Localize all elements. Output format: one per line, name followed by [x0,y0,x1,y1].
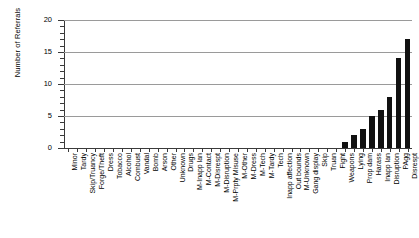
x-tick [176,148,177,152]
x-tick-label: Alcohol [125,153,132,176]
bar-slot [316,20,322,148]
x-tick-label: Skip [321,153,328,167]
bar-slot [253,20,259,148]
bar-slot [66,20,72,148]
x-tick [86,148,87,152]
x-tick [283,148,284,152]
x-tick-label: Harass [375,153,382,175]
x-tick-label: Vandal [143,153,150,174]
x-tick-label: M-Other [241,153,248,179]
x-tick [220,148,221,152]
x-tick-label: Out bounds [295,153,302,189]
bar [351,135,357,148]
x-tick [256,148,257,152]
x-tick [140,148,141,152]
bar-slot [75,20,81,148]
x-tick [381,148,382,152]
bar-slot [137,20,143,148]
x-tick [399,148,400,152]
x-tick-label: Weapons [348,153,355,182]
x-tick-label: Gang display [312,153,319,194]
bar-slot [146,20,152,148]
x-tick-label: Minor [71,153,78,171]
x-tick-label: Fight [339,153,346,169]
x-tick [372,148,373,152]
bar-slot [396,20,402,148]
x-tick-label: Truan [330,153,337,171]
bar-slot [262,20,268,148]
x-tick [390,148,391,152]
bar-slot [92,20,98,148]
x-tick [202,148,203,152]
y-tick-label-10: 10 [26,79,52,88]
bar-slot [191,20,197,148]
bar-slot [164,20,170,148]
x-tick-label: Tobacco [116,153,123,179]
x-tick-label: Unknown [179,153,186,182]
x-tick-label: Skip/Truancy [89,153,96,194]
x-tick-label: Dress [107,153,114,171]
bar-slot [405,20,411,148]
x-tick-label: M-Inapp lan [196,153,203,190]
x-tick-label: Tardy [80,153,87,170]
x-tick-label: Forge/Theft [98,153,105,189]
bar [378,110,384,148]
bar-slot [182,20,188,148]
x-tick [193,148,194,152]
bar [360,129,366,148]
x-tick [274,148,275,152]
bar-slot [200,20,206,148]
x-tick [327,148,328,152]
x-tick-label: Arson [161,153,168,171]
x-tick [265,148,266,152]
bar [369,116,375,148]
bar-slot [324,20,330,148]
bar [405,39,411,148]
x-tick [68,148,69,152]
x-tick-label: M-Unknown [303,153,310,190]
bar-slot [307,20,313,148]
y-tick-label-15: 15 [26,47,52,56]
x-tick [247,148,248,152]
bar-slot [119,20,125,148]
x-tick-label: Disrespt [411,153,418,179]
y-axis-title: Number of Referrals [13,0,22,98]
x-tick-label: M-Dress [250,153,257,179]
x-tick-label: Prop dam [366,153,373,183]
x-tick [336,148,337,152]
bar [387,97,393,148]
bar-slot [387,20,393,148]
bar-slot [235,20,241,148]
x-tick-label: Inapp lan [384,153,391,182]
x-tick [300,148,301,152]
bar-slot [244,20,250,148]
x-tick [292,148,293,152]
bar-slot [173,20,179,148]
x-tick-label: Tech [277,153,284,168]
bar-slot [84,20,90,148]
x-axis-tick-labels: MinorTardySkip/TruancyForge/TheftDressTo… [64,153,412,238]
x-tick [167,148,168,152]
bar-chart: Number of Referrals 05101520 MinorTardyS… [0,0,419,238]
bar-slot [101,20,107,148]
x-tick [149,148,150,152]
bar-slot [378,20,384,148]
x-tick-label: M-Tardy [268,153,275,178]
x-tick-label: M-Contact [205,153,212,185]
bar-slot [226,20,232,148]
bar-slot [289,20,295,148]
bar-slot [360,20,366,148]
x-tick [211,148,212,152]
x-tick-label: Disruption [393,153,400,185]
x-tick [122,148,123,152]
x-tick-label: PAgg [402,153,409,170]
bar-slot [128,20,134,148]
x-tick-label: M-Disrespt [214,153,221,187]
bar-slot [208,20,214,148]
x-tick [408,148,409,152]
y-tick-label-20: 20 [26,15,52,24]
x-tick-label: Lying [357,153,364,169]
x-tick [354,148,355,152]
x-tick-label: Bomb [152,153,159,171]
x-tick-label: Drugs [187,153,194,172]
